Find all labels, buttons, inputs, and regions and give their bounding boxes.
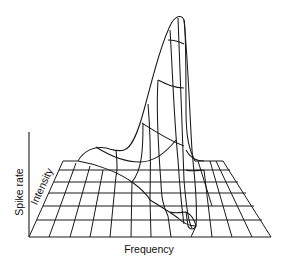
grid-col (131, 182, 132, 237)
surface-ridge (116, 150, 117, 176)
grid-col (168, 216, 171, 237)
grid-col (90, 170, 103, 237)
surface-ridge (178, 18, 192, 228)
surface-silhouette (78, 16, 195, 161)
grid-col (70, 166, 90, 237)
x-axis-label: Frequency (124, 243, 174, 255)
surface-plot: Spike rate Intensity Frequency (0, 0, 286, 269)
surface-ridge (157, 80, 168, 216)
z-axis-label: Spike rate (13, 168, 25, 215)
surface-ridge (148, 104, 151, 200)
grid-col (198, 161, 212, 206)
surface-skirt (186, 150, 204, 161)
surface-rib (96, 140, 176, 162)
surface-rib (170, 212, 186, 213)
y-axis-label: Intensity (28, 165, 56, 206)
surface-ridge (132, 124, 143, 182)
surface-rib (142, 123, 184, 146)
response-surface (78, 16, 204, 229)
